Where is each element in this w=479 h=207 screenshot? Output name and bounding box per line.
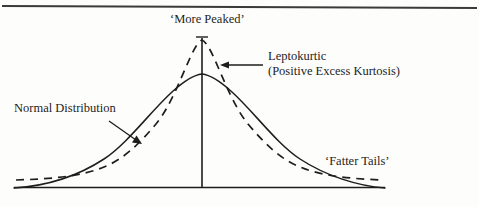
label-leptokurtic-main: Leptokurtic — [268, 49, 326, 63]
normal-distribution-curve — [14, 74, 385, 188]
kurtosis-figure: ‘More Peaked’ Leptokurtic (Positive Exce… — [0, 0, 479, 207]
label-more-peaked: ‘More Peaked’ — [170, 12, 245, 27]
leptokurtic-arrow — [220, 62, 263, 69]
label-leptokurtic: Leptokurtic (Positive Excess Kurtosis) — [268, 49, 400, 79]
label-normal-distribution: Normal Distribution — [14, 101, 116, 116]
label-fatter-tails: ‘Fatter Tails’ — [325, 154, 390, 169]
label-leptokurtic-subtitle: (Positive Excess Kurtosis) — [268, 64, 400, 79]
top-rule — [2, 6, 477, 8]
